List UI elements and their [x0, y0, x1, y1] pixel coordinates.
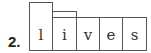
box-inner-line — [53, 17, 77, 18]
letter-box-medium: i — [52, 11, 77, 51]
letter: l — [30, 27, 52, 44]
letter: i — [53, 27, 76, 44]
letter: e — [100, 27, 122, 44]
letter-box-tall: l — [29, 2, 53, 51]
letter: s — [123, 27, 146, 44]
letter-box-short: v — [76, 17, 100, 51]
letter-box-short: e — [99, 17, 123, 51]
exercise-number: 2. — [8, 33, 21, 50]
letter: v — [77, 27, 99, 44]
letter-box-short: s — [122, 17, 147, 51]
